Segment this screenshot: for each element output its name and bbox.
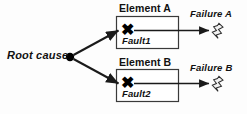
lightning-bolt-icon [211,22,224,39]
fault-propagation-diagram: Root cause Element A ✖ Fault1 Failure A … [0,0,247,114]
failure-b-label: Failure B [190,63,232,73]
edge-root-to-element-b [74,59,119,84]
failure-a-label: Failure A [190,9,232,19]
fault1-label: Fault1 [122,36,151,46]
lightning-bolt-icon [211,75,224,92]
root-cause-label: Root cause [7,50,68,61]
edge-root-to-element-a [74,31,119,56]
fault2-label: Fault2 [122,89,151,99]
element-a-title: Element A [119,3,171,14]
element-b-title: Element B [119,57,171,68]
